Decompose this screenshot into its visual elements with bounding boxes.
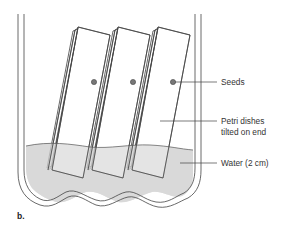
seed-1 — [91, 79, 96, 84]
seed-3 — [170, 79, 175, 84]
petri-dishes-label-line2: tilted on end — [221, 127, 266, 138]
petri-dishes-label-line1: Petri dishes — [221, 116, 264, 127]
panel-label: b. — [17, 211, 25, 221]
seeds-label: Seeds — [221, 77, 245, 88]
water-label: Water (2 cm) — [221, 158, 269, 169]
seed-2 — [130, 79, 135, 84]
